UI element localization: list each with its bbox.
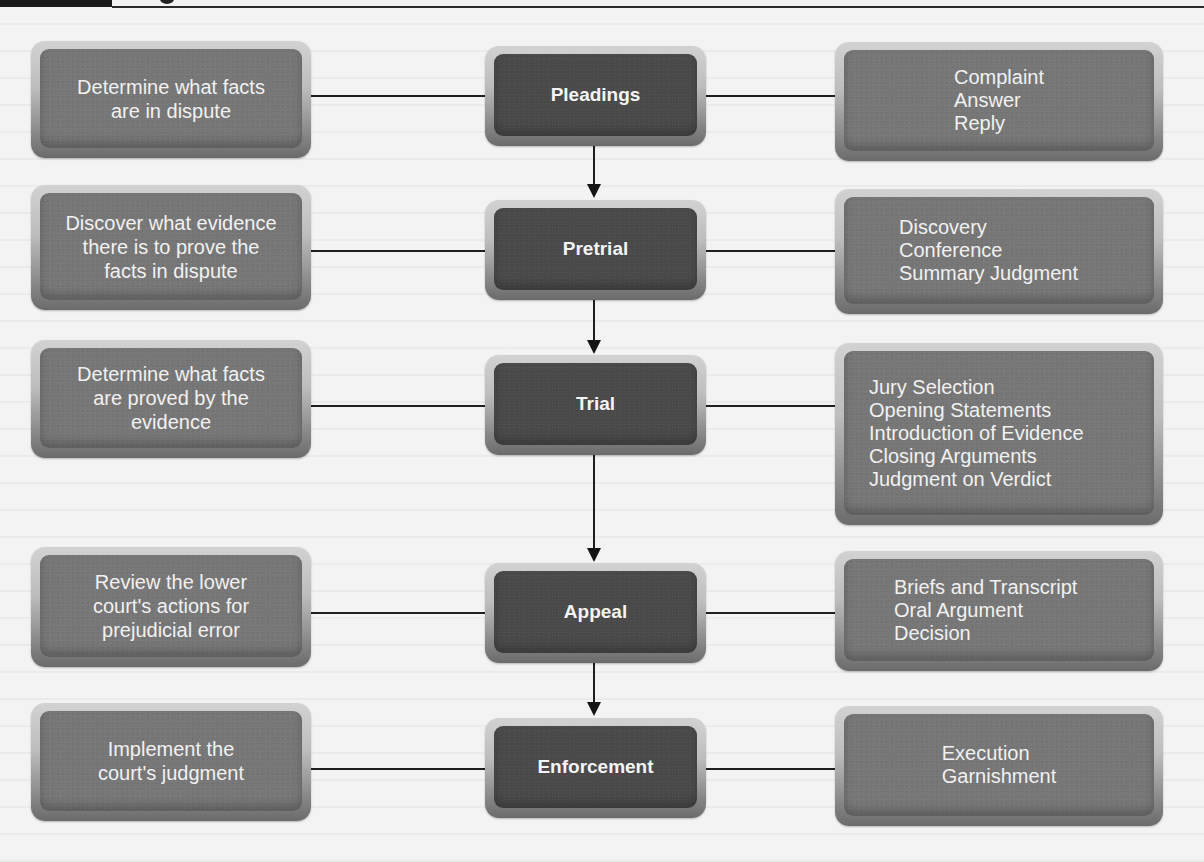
connector-appeal-left [308, 612, 488, 614]
step-item: Opening Statements [869, 399, 1084, 422]
purpose-line: Determine what facts [77, 362, 265, 386]
stage-label: Trial [576, 393, 615, 415]
steps-box-enforcement: Execution Garnishment [835, 706, 1163, 826]
connector-trial-left [308, 405, 488, 407]
purpose-box-enforcement: Implement the court's judgment [31, 703, 311, 821]
step-item: Summary Judgment [899, 262, 1078, 285]
arrow-shaft-pretrial-trial [593, 300, 595, 342]
purpose-line: Discover what evidence [65, 211, 276, 235]
purpose-line: court's actions for [93, 594, 249, 618]
stage-label: Pleadings [551, 84, 641, 106]
step-item: Decision [894, 622, 1077, 645]
step-item: Introduction of Evidence [869, 422, 1084, 445]
purpose-line: evidence [77, 410, 265, 434]
purpose-box-trial: Determine what facts are proved by the e… [31, 340, 311, 458]
connector-pretrial-left [308, 250, 488, 252]
step-item: Execution [942, 742, 1057, 765]
steps-box-appeal: Briefs and Transcript Oral Argument Deci… [835, 551, 1163, 671]
stage-box-enforcement: Enforcement [485, 718, 706, 818]
arrowhead-down-icon [587, 702, 601, 716]
step-item: Complaint [954, 66, 1044, 89]
steps-box-pretrial: Discovery Conference Summary Judgment [835, 189, 1163, 314]
arrowhead-down-icon [587, 340, 601, 354]
step-item: Closing Arguments [869, 445, 1084, 468]
header-rule [112, 6, 1204, 8]
step-item: Judgment on Verdict [869, 468, 1084, 491]
arrow-shaft-pleadings-pretrial [593, 145, 595, 187]
steps-box-pleadings: Complaint Answer Reply [835, 42, 1163, 161]
connector-pretrial-right [703, 250, 837, 252]
purpose-box-pretrial: Discover what evidence there is to prove… [31, 185, 311, 310]
stage-label: Appeal [564, 601, 627, 623]
purpose-line: Determine what facts [77, 75, 265, 99]
purpose-line: facts in dispute [65, 259, 276, 283]
purpose-line: are in dispute [77, 99, 265, 123]
connector-appeal-right [703, 612, 837, 614]
stage-box-trial: Trial [485, 355, 706, 455]
arrowhead-down-icon [587, 184, 601, 198]
purpose-line: Implement the [98, 737, 244, 761]
step-item: Discovery [899, 216, 1078, 239]
step-item: Oral Argument [894, 599, 1077, 622]
connector-enforcement-right [703, 768, 837, 770]
step-item: Conference [899, 239, 1078, 262]
stage-label: Pretrial [563, 238, 628, 260]
step-item: Garnishment [942, 765, 1057, 788]
step-item: Briefs and Transcript [894, 576, 1077, 599]
step-item: Reply [954, 112, 1044, 135]
purpose-line: are proved by the [77, 386, 265, 410]
stage-box-appeal: Appeal [485, 563, 706, 663]
arrowhead-down-icon [587, 548, 601, 562]
stage-box-pleadings: Pleadings [485, 46, 706, 146]
purpose-line: there is to prove the [65, 235, 276, 259]
connector-pleadings-right [703, 95, 837, 97]
step-item: Jury Selection [869, 376, 1084, 399]
purpose-line: prejudicial error [93, 618, 249, 642]
purpose-box-appeal: Review the lower court's actions for pre… [31, 547, 311, 667]
header-tab [0, 0, 112, 7]
stage-label: Enforcement [537, 756, 653, 778]
stage-box-pretrial: Pretrial [485, 200, 706, 300]
arrow-shaft-trial-appeal [593, 455, 595, 550]
purpose-line: Review the lower [93, 570, 249, 594]
purpose-box-pleadings: Determine what facts are in dispute [31, 41, 311, 158]
connector-trial-right [703, 405, 837, 407]
step-item: Answer [954, 89, 1044, 112]
connector-enforcement-left [308, 768, 488, 770]
purpose-line: court's judgment [98, 761, 244, 785]
steps-box-trial: Jury Selection Opening Statements Introd… [835, 343, 1163, 525]
connector-pleadings-left [308, 95, 488, 97]
arrow-shaft-appeal-enforcement [593, 662, 595, 704]
